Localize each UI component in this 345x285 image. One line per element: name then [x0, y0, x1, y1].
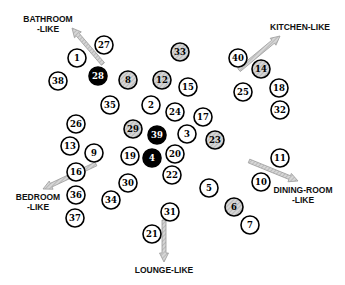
node-23: 23 [206, 131, 224, 149]
node-8: 8 [119, 71, 137, 89]
node-label: 16 [70, 167, 82, 177]
node-label: 26 [70, 119, 82, 129]
node-label: 38 [52, 76, 64, 86]
node-label: 12 [156, 75, 168, 85]
node-label: 4 [149, 153, 155, 163]
cluster-diagram: BATHROOM-LIKEKITCHEN-LIKEBEDROOM-LIKEDIN… [0, 0, 345, 285]
node-38: 38 [49, 72, 67, 90]
lounge-label: LOUNGE-LIKE [135, 265, 194, 275]
node-label: 3 [184, 129, 190, 139]
node-22: 22 [163, 166, 181, 184]
node-39: 39 [148, 126, 166, 144]
node-label: 32 [274, 105, 286, 115]
node-label: 20 [169, 149, 181, 159]
node-label: 24 [169, 107, 181, 117]
node-19: 19 [121, 147, 139, 165]
node-label: 13 [64, 141, 76, 151]
node-27: 27 [95, 36, 113, 54]
node-label: 23 [209, 135, 221, 145]
node-label: 36 [70, 190, 82, 200]
node-label: 19 [124, 151, 136, 161]
node-3: 3 [178, 125, 196, 143]
node-label: 25 [237, 87, 249, 97]
node-label: 11 [274, 153, 286, 163]
node-label: 22 [166, 170, 178, 180]
node-label: 30 [122, 178, 134, 188]
node-33: 33 [171, 43, 189, 61]
node-6: 6 [225, 198, 243, 216]
node-7: 7 [241, 216, 259, 234]
node-17: 17 [194, 108, 212, 126]
nodes: 2712838812331535224174014251832262939323… [49, 36, 289, 243]
node-10: 10 [252, 173, 270, 191]
node-37: 37 [66, 209, 84, 227]
node-13: 13 [61, 137, 79, 155]
node-29: 29 [124, 120, 142, 138]
node-label: 31 [164, 207, 176, 217]
node-28: 28 [89, 67, 107, 85]
node-label: 27 [98, 40, 110, 50]
node-2: 2 [142, 96, 160, 114]
node-label: 6 [231, 202, 237, 212]
node-16: 16 [67, 163, 85, 181]
node-label: 14 [255, 64, 267, 74]
node-24: 24 [166, 103, 184, 121]
node-label: 9 [91, 148, 97, 158]
kitchen-label: KITCHEN-LIKE [270, 22, 330, 32]
node-18: 18 [270, 79, 288, 97]
node-label: 1 [74, 53, 80, 63]
node-12: 12 [153, 71, 171, 89]
node-40: 40 [229, 49, 247, 67]
node-34: 34 [102, 191, 120, 209]
node-14: 14 [252, 60, 270, 78]
node-36: 36 [67, 186, 85, 204]
node-25: 25 [234, 83, 252, 101]
node-label: 18 [273, 83, 285, 93]
node-label: 29 [127, 124, 139, 134]
dining-room-label: DINING-ROOM-LIKE [273, 185, 332, 205]
node-20: 20 [166, 145, 184, 163]
node-label: 8 [125, 75, 131, 85]
bathroom-label: BATHROOM-LIKE [23, 14, 72, 34]
node-5: 5 [200, 179, 218, 197]
node-4: 4 [143, 149, 161, 167]
node-label: 39 [151, 130, 163, 140]
node-label: 5 [206, 183, 212, 193]
node-1: 1 [68, 49, 86, 67]
node-21: 21 [143, 225, 161, 243]
node-label: 35 [104, 100, 116, 110]
node-26: 26 [67, 115, 85, 133]
node-31: 31 [161, 203, 179, 221]
node-35: 35 [101, 96, 119, 114]
bedroom-label: BEDROOM-LIKE [16, 192, 60, 212]
lounge-arrow [160, 220, 169, 262]
node-11: 11 [271, 149, 289, 167]
node-label: 40 [232, 53, 244, 63]
node-label: 28 [92, 71, 104, 81]
node-label: 21 [146, 229, 158, 239]
node-32: 32 [271, 101, 289, 119]
node-label: 15 [182, 82, 194, 92]
node-label: 33 [174, 47, 186, 57]
node-label: 10 [255, 177, 267, 187]
node-30: 30 [119, 174, 137, 192]
node-label: 2 [148, 100, 154, 110]
node-label: 7 [247, 220, 253, 230]
node-label: 37 [69, 213, 81, 223]
node-15: 15 [179, 78, 197, 96]
node-9: 9 [85, 144, 103, 162]
node-label: 17 [197, 112, 209, 122]
node-label: 34 [105, 195, 117, 205]
